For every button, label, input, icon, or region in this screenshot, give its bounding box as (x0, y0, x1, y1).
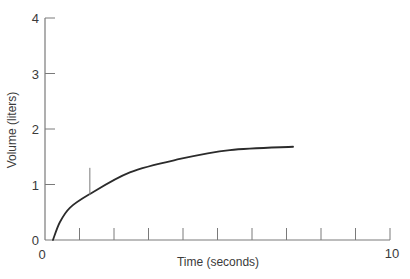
ticks (45, 18, 390, 240)
y-tick-label: 1 (32, 178, 39, 193)
y-tick-label: 0 (32, 233, 39, 248)
x-tick-label: 10 (385, 246, 399, 261)
y-axis-title: Volume (liters) (5, 92, 19, 169)
volume-curve (53, 147, 293, 240)
x-tick-label: 0 (38, 247, 45, 262)
y-tick-label: 4 (32, 11, 39, 26)
axes (45, 18, 390, 240)
volume-time-chart: 01234010 Time (seconds) Volume (liters) (0, 0, 410, 279)
series (53, 147, 293, 240)
y-tick-label: 3 (32, 67, 39, 82)
y-tick-label: 2 (32, 122, 39, 137)
x-axis-title: Time (seconds) (177, 255, 259, 269)
tick-labels: 01234010 (32, 11, 399, 262)
